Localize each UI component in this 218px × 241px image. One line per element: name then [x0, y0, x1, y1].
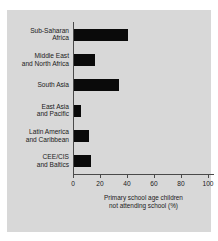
category-label: Sub-Saharan Africa: [5, 27, 69, 42]
x-axis-title: Primary school age children not attendin…: [73, 194, 214, 210]
x-tick: [154, 174, 155, 178]
bar-east-asia-and-pacific: [73, 105, 81, 117]
bar-row: East Asia and Pacific: [73, 98, 208, 123]
bar-cee-cis-and-baltics: [73, 155, 91, 167]
x-tick: [127, 174, 128, 178]
x-tick: [100, 174, 101, 178]
x-tick-label: 20: [96, 180, 103, 187]
category-label: East Asia and Pacific: [5, 103, 69, 118]
y-axis-line: [73, 22, 74, 174]
bar-middle-east-and-north-africa: [73, 54, 95, 66]
bar-row: Latin America and Caribbean: [73, 123, 208, 148]
chart-figure: Sub-Saharan Africa Middle East and North…: [7, 10, 211, 232]
x-axis-line: [73, 174, 214, 175]
category-label: Middle East and North Africa: [5, 52, 69, 67]
category-label: CEE/CIS and Baltics: [5, 154, 69, 169]
x-tick: [208, 174, 209, 178]
bar-row: Sub-Saharan Africa: [73, 22, 208, 47]
bars-container: Sub-Saharan Africa Middle East and North…: [73, 22, 208, 174]
x-tick: [181, 174, 182, 178]
x-tick-label: 100: [202, 180, 213, 187]
plot-area: Sub-Saharan Africa Middle East and North…: [73, 22, 206, 232]
x-tick-label: 40: [123, 180, 130, 187]
category-label: Latin America and Caribbean: [5, 128, 69, 143]
bar-row: Middle East and North Africa: [73, 47, 208, 72]
x-tick-label: 80: [177, 180, 184, 187]
x-tick-label: 0: [71, 180, 75, 187]
bar-row: South Asia: [73, 73, 208, 98]
category-label: South Asia: [5, 82, 69, 90]
bar-sub-saharan-africa: [73, 29, 128, 41]
bar-row: CEE/CIS and Baltics: [73, 149, 208, 174]
x-tick: [73, 174, 74, 178]
bar-south-asia: [73, 79, 119, 91]
x-tick-label: 60: [150, 180, 157, 187]
bar-latin-america-and-caribbean: [73, 130, 89, 142]
